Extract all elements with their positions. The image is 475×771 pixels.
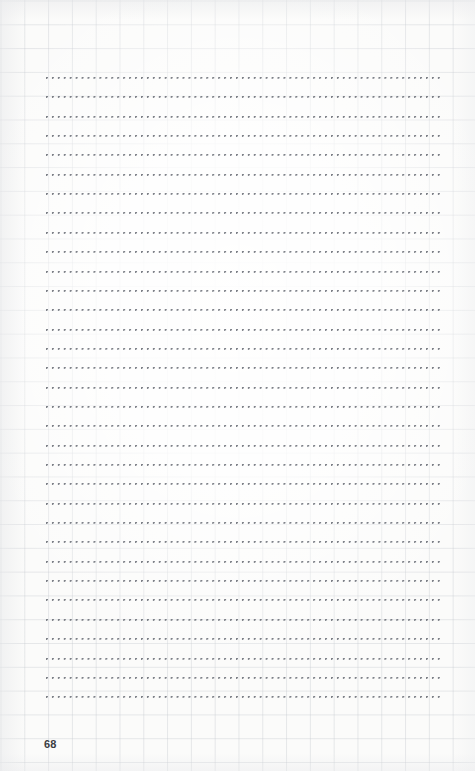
dotted-rule-line bbox=[46, 348, 442, 350]
dotted-rule-line bbox=[46, 638, 442, 640]
dotted-rule-line bbox=[46, 174, 442, 176]
dotted-rule-line bbox=[46, 290, 442, 292]
dotted-rule-line bbox=[46, 271, 442, 273]
dotted-rule-line bbox=[46, 561, 442, 563]
dotted-rule-line bbox=[46, 77, 442, 79]
dotted-rule-line bbox=[46, 425, 442, 427]
dotted-rule-line bbox=[46, 251, 442, 253]
dotted-rule-line bbox=[46, 696, 442, 698]
dotted-rule-line bbox=[46, 135, 442, 137]
dotted-guide-lines-area bbox=[46, 70, 442, 702]
dotted-rule-line bbox=[46, 232, 442, 234]
dotted-rule-line bbox=[46, 522, 442, 524]
dotted-rule-line bbox=[46, 193, 442, 195]
dotted-rule-line bbox=[46, 503, 442, 505]
dotted-rule-line bbox=[46, 154, 442, 156]
dotted-rule-line bbox=[46, 483, 442, 485]
notebook-page: 68 bbox=[0, 0, 475, 771]
dotted-rule-line bbox=[46, 464, 442, 466]
dotted-rule-line bbox=[46, 445, 442, 447]
dotted-rule-line bbox=[46, 619, 442, 621]
dotted-rule-line bbox=[46, 406, 442, 408]
dotted-rule-line bbox=[46, 677, 442, 679]
dotted-rule-line bbox=[46, 541, 442, 543]
dotted-rule-line bbox=[46, 329, 442, 331]
page-number: 68 bbox=[44, 737, 57, 751]
dotted-rule-line bbox=[46, 116, 442, 118]
dotted-rule-line bbox=[46, 599, 442, 601]
dotted-rule-line bbox=[46, 309, 442, 311]
dotted-rule-line bbox=[46, 367, 442, 369]
dotted-rule-line bbox=[46, 658, 442, 660]
dotted-rule-line bbox=[46, 580, 442, 582]
dotted-rule-line bbox=[46, 212, 442, 214]
dotted-rule-line bbox=[46, 387, 442, 389]
dotted-rule-line bbox=[46, 96, 442, 98]
